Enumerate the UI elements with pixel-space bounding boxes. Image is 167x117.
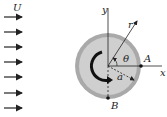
flow-arrows	[4, 17, 22, 108]
rotating-cylinder-diagram: U y x r θ a A B	[0, 0, 167, 117]
y-axis-label: y	[101, 4, 108, 15]
r-label: r	[128, 19, 134, 30]
point-b-label: B	[110, 100, 118, 111]
point-a	[139, 64, 143, 68]
x-axis-label: x	[160, 67, 166, 78]
a-label: a	[117, 71, 123, 82]
point-a-label: A	[143, 53, 151, 64]
free-stream-label: U	[13, 2, 22, 13]
point-b	[106, 96, 110, 100]
theta-label: θ	[123, 53, 129, 64]
